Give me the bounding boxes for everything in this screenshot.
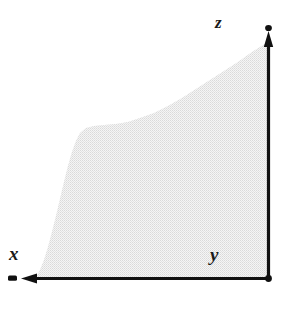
z-axis-arrowhead xyxy=(264,31,273,47)
axis-label-x: x xyxy=(9,244,19,263)
shaded-region xyxy=(0,0,290,310)
x-axis-tip-dash xyxy=(8,276,17,281)
origin-corner-joint xyxy=(265,275,272,282)
x-axis-arrowhead xyxy=(21,274,37,284)
axis-label-y: y xyxy=(210,245,218,264)
figure-canvas: z y x xyxy=(0,0,290,310)
z-axis-tip-dot xyxy=(265,25,272,31)
axis-label-z: z xyxy=(215,14,222,31)
figure-graphic xyxy=(0,0,290,310)
